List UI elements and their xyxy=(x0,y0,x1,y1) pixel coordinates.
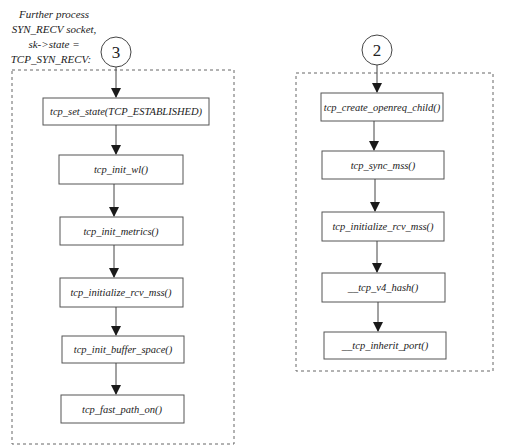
node-label: tcp_init_wl() xyxy=(94,164,149,176)
node-label: tcp_set_state(TCP_ESTABLISHED) xyxy=(50,106,203,118)
node-label: __tcp_inherit_port() xyxy=(341,340,429,352)
caption-line: Further process xyxy=(18,8,89,20)
node-label: tcp_init_buffer_space() xyxy=(74,344,173,356)
caption-line: sk->state = xyxy=(28,38,79,50)
node-label: tcp_initialize_rcv_mss() xyxy=(70,287,172,299)
group-3-frame xyxy=(12,70,234,444)
caption-line: TCP_SYN_RECV: xyxy=(11,53,92,65)
caption-line: SYN_RECV socket, xyxy=(12,23,97,35)
step-2-label: 2 xyxy=(373,41,382,60)
step-3-label: 3 xyxy=(112,43,121,62)
group-3: 3 tcp_set_state(TCP_ESTABLISHED) tcp_ini… xyxy=(43,37,209,423)
group-2: 2 tcp_create_openreq_child() tcp_sync_ms… xyxy=(321,35,446,359)
node-label: tcp_fast_path_on() xyxy=(82,404,162,416)
node-label: tcp_sync_mss() xyxy=(351,160,416,172)
node-label: tcp_init_metrics() xyxy=(83,226,159,238)
node-label: __tcp_v4_hash() xyxy=(347,282,419,294)
flow-diagram: Further process SYN_RECV socket, sk->sta… xyxy=(0,0,508,446)
left-caption: Further process SYN_RECV socket, sk->sta… xyxy=(11,8,97,65)
node-label: tcp_create_openreq_child() xyxy=(324,102,441,114)
node-label: tcp_initialize_rcv_mss() xyxy=(332,221,434,233)
